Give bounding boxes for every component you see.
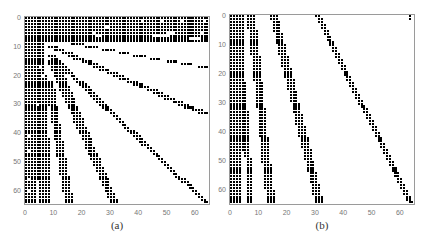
nonzero-entry bbox=[34, 187, 36, 189]
nonzero-entry bbox=[181, 181, 183, 183]
nonzero-entry bbox=[233, 100, 235, 102]
nonzero-entry bbox=[261, 103, 263, 105]
nonzero-entry bbox=[45, 89, 47, 91]
nonzero-entry bbox=[39, 124, 41, 126]
nonzero-entry bbox=[42, 32, 44, 34]
nonzero-entry bbox=[259, 68, 261, 70]
nonzero-entry bbox=[236, 103, 238, 105]
nonzero-entry bbox=[315, 201, 317, 203]
nonzero-entry bbox=[233, 155, 235, 157]
nonzero-entry bbox=[247, 117, 249, 119]
nonzero-entry bbox=[71, 23, 73, 25]
nonzero-entry bbox=[96, 164, 98, 166]
nonzero-entry bbox=[181, 29, 183, 31]
nonzero-entry bbox=[62, 35, 64, 37]
nonzero-entry bbox=[250, 24, 252, 26]
nonzero-entry bbox=[37, 92, 39, 94]
nonzero-entry bbox=[51, 98, 53, 100]
nonzero-entry bbox=[184, 32, 186, 34]
nonzero-entry bbox=[239, 105, 241, 107]
nonzero-entry bbox=[192, 190, 194, 192]
nonzero-entry bbox=[73, 55, 75, 57]
nonzero-entry bbox=[242, 111, 244, 113]
nonzero-entry bbox=[293, 108, 295, 110]
nonzero-entry bbox=[96, 153, 98, 155]
nonzero-entry bbox=[62, 150, 64, 152]
nonzero-entry bbox=[170, 98, 172, 100]
nonzero-entry bbox=[31, 106, 33, 108]
nonzero-entry bbox=[28, 46, 30, 48]
nonzero-entry bbox=[136, 138, 138, 140]
nonzero-entry bbox=[51, 17, 53, 19]
nonzero-entry bbox=[278, 30, 280, 32]
nonzero-entry bbox=[48, 158, 50, 160]
nonzero-entry bbox=[110, 49, 112, 51]
nonzero-entry bbox=[250, 44, 252, 46]
nonzero-entry bbox=[85, 83, 87, 85]
nonzero-entry bbox=[73, 43, 75, 45]
nonzero-entry bbox=[256, 94, 258, 96]
nonzero-entry bbox=[170, 29, 172, 31]
nonzero-entry bbox=[122, 26, 124, 28]
nonzero-entry bbox=[37, 29, 39, 31]
nonzero-entry bbox=[346, 73, 348, 75]
nonzero-entry bbox=[48, 184, 50, 186]
nonzero-entry bbox=[230, 114, 232, 116]
nonzero-entry bbox=[96, 101, 98, 103]
nonzero-entry bbox=[261, 129, 263, 131]
nonzero-entry bbox=[39, 78, 41, 80]
nonzero-entry bbox=[139, 17, 141, 19]
nonzero-entry bbox=[25, 83, 27, 85]
nonzero-entry bbox=[304, 143, 306, 145]
nonzero-entry bbox=[233, 123, 235, 125]
nonzero-entry bbox=[310, 178, 312, 180]
nonzero-entry bbox=[259, 65, 261, 67]
nonzero-entry bbox=[192, 106, 194, 108]
nonzero-entry bbox=[242, 27, 244, 29]
nonzero-entry bbox=[139, 135, 141, 137]
nonzero-entry bbox=[250, 193, 252, 195]
nonzero-entry bbox=[54, 69, 56, 71]
nonzero-entry bbox=[259, 120, 261, 122]
nonzero-entry bbox=[233, 94, 235, 96]
nonzero-entry bbox=[88, 150, 90, 152]
nonzero-entry bbox=[31, 52, 33, 54]
nonzero-entry bbox=[54, 98, 56, 100]
nonzero-entry bbox=[45, 161, 47, 163]
nonzero-entry bbox=[244, 100, 246, 102]
nonzero-entry bbox=[233, 178, 235, 180]
nonzero-entry bbox=[37, 46, 39, 48]
nonzero-entry bbox=[99, 101, 101, 103]
nonzero-entry bbox=[236, 88, 238, 90]
nonzero-entry bbox=[256, 91, 258, 93]
nonzero-entry bbox=[65, 101, 67, 103]
nonzero-entry bbox=[327, 30, 329, 32]
nonzero-entry bbox=[264, 129, 266, 131]
nonzero-entry bbox=[236, 85, 238, 87]
nonzero-entry bbox=[261, 120, 263, 122]
nonzero-entry bbox=[301, 123, 303, 125]
nonzero-entry bbox=[62, 167, 64, 169]
nonzero-entry bbox=[45, 127, 47, 129]
nonzero-entry bbox=[284, 62, 286, 64]
nonzero-entry bbox=[62, 173, 64, 175]
nonzero-entry bbox=[37, 127, 39, 129]
nonzero-entry bbox=[253, 41, 255, 43]
nonzero-entry bbox=[236, 21, 238, 23]
nonzero-entry bbox=[175, 17, 177, 19]
nonzero-entry bbox=[178, 176, 180, 178]
nonzero-entry bbox=[122, 23, 124, 25]
nonzero-entry bbox=[139, 40, 141, 42]
nonzero-entry bbox=[242, 15, 244, 17]
nonzero-entry bbox=[90, 40, 92, 42]
nonzero-entry bbox=[230, 152, 232, 154]
nonzero-entry bbox=[298, 126, 300, 128]
nonzero-entry bbox=[42, 170, 44, 172]
nonzero-entry bbox=[175, 32, 177, 34]
nonzero-entry bbox=[39, 75, 41, 77]
nonzero-entry bbox=[204, 29, 206, 31]
nonzero-entry bbox=[233, 56, 235, 58]
nonzero-entry bbox=[42, 26, 44, 28]
nonzero-entry bbox=[31, 201, 33, 203]
nonzero-entry bbox=[250, 30, 252, 32]
